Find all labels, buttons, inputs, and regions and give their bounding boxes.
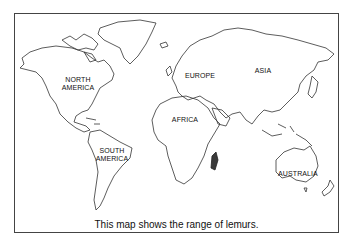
label-line: EUROPE	[180, 72, 220, 80]
label-africa: AFRICA	[168, 116, 202, 124]
tasmania-shape	[304, 188, 307, 192]
label-line: SOUTH	[92, 147, 132, 155]
southeast-asia-islands-shape	[262, 124, 312, 146]
map-caption: This map shows the range of lemurs.	[14, 219, 339, 230]
greenland-shape	[98, 20, 156, 64]
madagascar-highlight	[211, 152, 218, 170]
new-zealand-shape	[322, 180, 334, 196]
japan-shape	[308, 76, 318, 98]
label-australia: AUSTRALIA	[276, 170, 320, 178]
label-line: ASIA	[250, 67, 276, 75]
label-line: AMERICA	[92, 155, 132, 163]
label-line: AMERICA	[58, 84, 98, 92]
south-america-shape	[88, 130, 132, 210]
africa-shape	[152, 96, 220, 184]
label-line: AUSTRALIA	[276, 170, 320, 178]
arctic-islands-shape	[62, 34, 98, 62]
caribbean-shape	[86, 118, 100, 124]
label-asia: ASIA	[250, 67, 276, 75]
label-north-america: NORTH AMERICA	[58, 76, 98, 92]
uk-shape	[160, 42, 172, 76]
label-line: AFRICA	[168, 116, 202, 124]
label-europe: EUROPE	[180, 72, 220, 80]
label-south-america: SOUTH AMERICA	[92, 147, 132, 163]
label-line: NORTH	[58, 76, 98, 84]
